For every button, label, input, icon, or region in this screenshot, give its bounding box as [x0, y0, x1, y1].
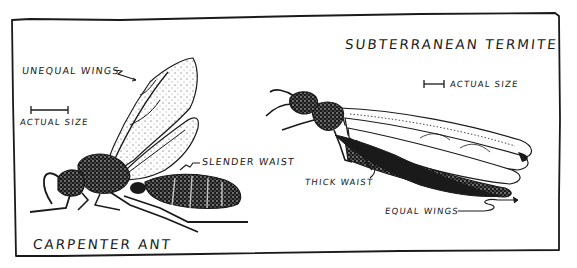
ant-vs-termite-illustration: UNEQUAL WINGS ACTUAL SIZE SLENDER WAIST …: [0, 0, 577, 268]
slender-waist-label: SLENDER WAIST: [201, 156, 295, 167]
unequal-wings-label: UNEQUAL WINGS: [21, 65, 120, 76]
equal-wings-leader: [458, 199, 516, 211]
carpenter-ant-drawing: [30, 58, 248, 232]
subterranean-termite-title: SUBTERRANEAN TERMITE: [344, 36, 558, 52]
slender-waist-leader: [180, 163, 200, 170]
ant-actual-size-label: ACTUAL SIZE: [19, 117, 89, 127]
termite-antenna-2: [266, 104, 292, 116]
thick-waist-label: THICK WAIST: [304, 177, 373, 187]
ant-gaster: [145, 174, 241, 208]
termite-scale-bar: [424, 80, 444, 88]
equal-wings-label: EQUAL WINGS: [384, 206, 459, 216]
termite-actual-size-label: ACTUAL SIZE: [449, 79, 519, 89]
termite-antenna-1: [270, 90, 294, 96]
carpenter-ant-title: CARPENTER ANT: [32, 236, 173, 252]
ant-scale-bar: [31, 106, 68, 114]
ant-head: [58, 170, 85, 196]
